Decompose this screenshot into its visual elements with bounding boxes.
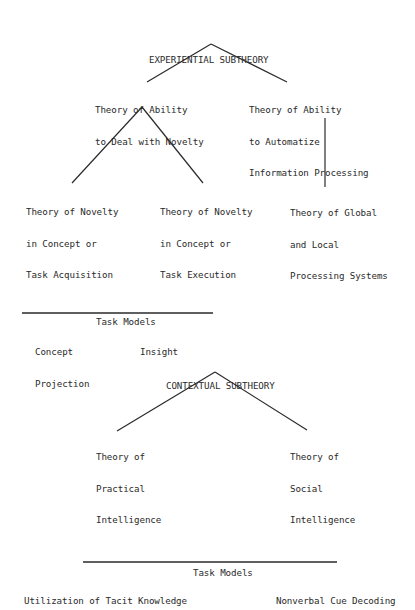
task-model-nonverbal-cue: Nonverbal Cue Decoding xyxy=(276,575,396,610)
node-practical-intelligence: Theory of Practical Intelligence xyxy=(96,431,161,547)
node-novelty-acquisition: Theory of Novelty in Concept or Task Acq… xyxy=(26,186,118,302)
node-social-intelligence: Theory of Social Intelligence xyxy=(290,431,355,547)
task-model-tacit-knowledge: Utilization of Tacit Knowledge xyxy=(24,575,187,610)
experiential-subtheory-title: EXPERIENTIAL SUBTHEORY xyxy=(149,34,269,87)
node-ability-novelty: Theory of Ability to Deal with Novelty xyxy=(95,84,204,168)
node-novelty-execution: Theory of Novelty in Concept or Task Exe… xyxy=(160,186,252,302)
node-ability-automatize: Theory of Ability to Automatize Informat… xyxy=(249,84,369,200)
task-models-heading-2: Task Models xyxy=(193,547,253,600)
node-global-local-processing: Theory of Global and Local Processing Sy… xyxy=(290,187,388,303)
contextual-subtheory-title: CONTEXTUAL SUBTHEORY xyxy=(166,360,275,413)
task-model-concept-projection: Concept Projection xyxy=(35,326,89,410)
